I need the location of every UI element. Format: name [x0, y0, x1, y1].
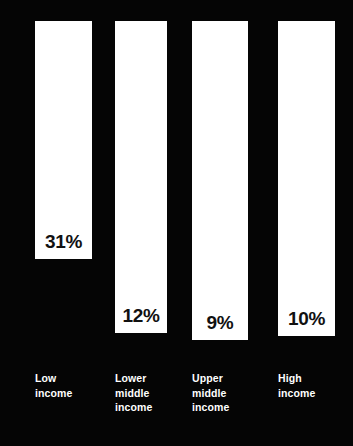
category-label-low-income: Low income [35, 371, 107, 400]
category-label-upper-middle-income: Upper middle income [192, 371, 264, 415]
bar-value-upper-middle-income: 9% [192, 313, 248, 332]
bar-upper-middle-income[interactable] [192, 21, 248, 340]
bar-high-income[interactable] [278, 21, 335, 336]
bar-chart: 31% 12% 9% 10% Low income Lower middle i… [0, 0, 353, 446]
bar-group-lower-middle-income: 12% [115, 21, 167, 333]
bar-lower-middle-income[interactable] [115, 21, 167, 333]
category-label-high-income: High income [278, 371, 350, 400]
category-axis: Low income Lower middle income Upper mid… [0, 371, 353, 441]
bar-group-upper-middle-income: 9% [192, 21, 248, 340]
bar-low-income[interactable] [35, 21, 92, 259]
category-label-lower-middle-income: Lower middle income [115, 371, 187, 415]
plot-area: 31% 12% 9% 10% [0, 0, 353, 360]
bar-value-low-income: 31% [35, 232, 92, 251]
bar-group-high-income: 10% [278, 21, 335, 336]
bar-group-low-income: 31% [35, 21, 92, 259]
bar-value-high-income: 10% [278, 309, 335, 328]
bar-value-lower-middle-income: 12% [115, 306, 167, 325]
